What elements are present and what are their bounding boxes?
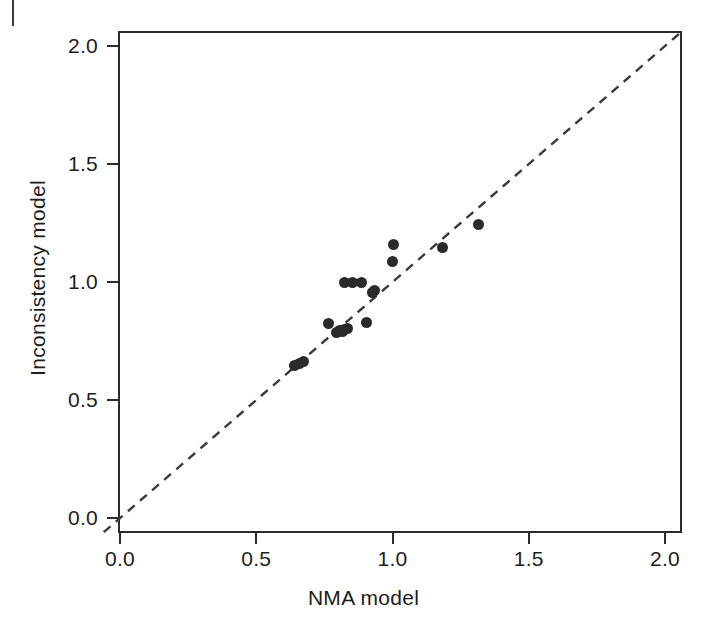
data-point [356,277,367,288]
x-axis-spine [118,531,682,533]
x-tick-label: 0.0 [90,548,150,569]
data-point [369,285,380,296]
x-tick-mark [392,533,394,544]
x-tick-label: 2.0 [635,548,695,569]
y-tick-mark [107,517,118,519]
identity-reference-line [120,46,665,518]
crop-mark [12,0,14,26]
y-tick-mark [107,45,118,47]
y-tick-label: 2.0 [40,35,98,56]
data-point [388,239,399,250]
data-point [361,317,372,328]
data-point [342,323,353,334]
y-tick-mark [107,399,118,401]
scatter-plot-figure: 0.00.51.01.52.0 0.00.51.01.52.0 NMA mode… [0,0,727,625]
plot-area [120,46,665,518]
x-tick-label: 1.0 [363,548,423,569]
x-tick-mark [528,533,530,544]
top-frame-line [118,31,682,33]
x-tick-mark [664,533,666,544]
x-tick-mark [255,533,257,544]
x-axis-title: NMA model [0,586,727,610]
data-point [298,356,309,367]
x-tick-label: 0.5 [226,548,286,569]
right-frame-line [680,31,682,533]
y-tick-label: 0.0 [40,507,98,528]
x-tick-label: 1.5 [499,548,559,569]
y-axis-title: Inconsistency model [26,88,50,468]
data-point [387,256,398,267]
data-point [473,219,484,230]
y-tick-mark [107,281,118,283]
x-tick-mark [119,533,121,544]
data-point [437,242,448,253]
y-tick-mark [107,163,118,165]
